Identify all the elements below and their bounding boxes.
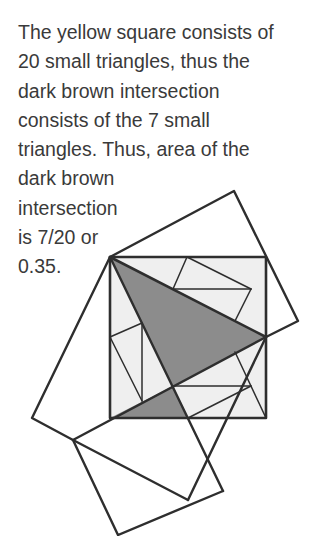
bottom-tilted-square-outer bbox=[73, 440, 223, 535]
bottom-tilted-square bbox=[73, 440, 188, 500]
geometry-diagram bbox=[0, 0, 319, 536]
